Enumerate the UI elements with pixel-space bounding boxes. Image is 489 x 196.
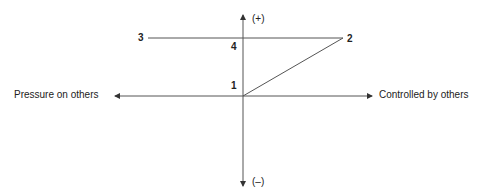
point-label-2: 2 [347,33,353,44]
point-label-4: 4 [231,41,237,52]
point-label-3: 3 [138,32,144,43]
line-1-to-2 [243,38,343,96]
bottom-axis-label: (–) [252,176,264,187]
point-label-1: 1 [231,80,237,91]
left-axis-label: Pressure on others [14,89,99,100]
top-axis-label: (+) [252,13,265,24]
right-axis-label: Controlled by others [379,89,469,100]
